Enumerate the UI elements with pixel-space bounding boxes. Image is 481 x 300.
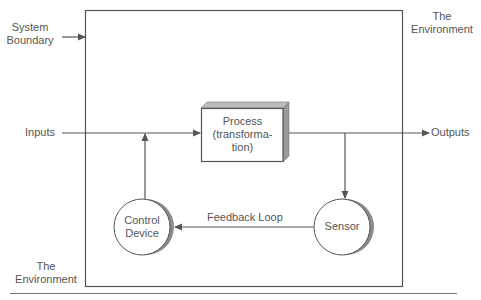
process-label-line3: tion) bbox=[202, 141, 283, 154]
environment-top-label: The Environment bbox=[406, 10, 478, 36]
environment-bottom-label-line1: The bbox=[10, 260, 82, 273]
outputs-label: Outputs bbox=[431, 126, 470, 139]
feedback-loop-label: Feedback Loop bbox=[207, 211, 283, 224]
system-boundary-label-line1: System bbox=[4, 21, 56, 34]
environment-bottom-label-line2: Environment bbox=[10, 273, 82, 286]
inputs-label: Inputs bbox=[25, 126, 55, 139]
control-device-label-line1: Control bbox=[114, 214, 170, 227]
control-device-label: Control Device bbox=[114, 214, 170, 240]
environment-top-label-line1: The bbox=[406, 10, 478, 23]
control-device-label-line2: Device bbox=[114, 227, 170, 240]
process-box-top-face bbox=[201, 102, 289, 108]
system-boundary-label-line2: Boundary bbox=[4, 34, 56, 47]
environment-top-label-line2: Environment bbox=[406, 23, 478, 36]
system-boundary-label: System Boundary bbox=[4, 21, 56, 47]
sensor-label-line1: Sensor bbox=[314, 220, 370, 233]
process-box-side-face bbox=[283, 102, 289, 162]
sensor-label: Sensor bbox=[314, 220, 370, 233]
process-label-line2: (transforma- bbox=[202, 128, 283, 141]
environment-bottom-label: The Environment bbox=[10, 260, 82, 286]
process-label-line1: Process bbox=[202, 115, 283, 128]
process-label: Process (transforma- tion) bbox=[202, 115, 283, 154]
